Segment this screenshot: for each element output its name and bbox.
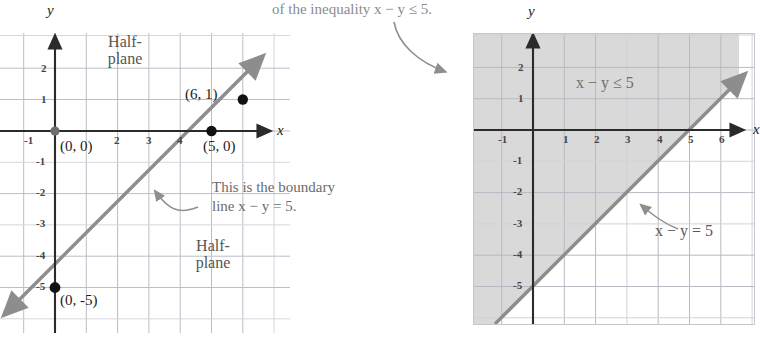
region-label-upper-halfplane: Half- plane <box>90 34 160 68</box>
right-xtick-1: 1 <box>563 133 569 145</box>
right-ytick--1: -1 <box>513 154 522 166</box>
point-label-origin: (0, 0) <box>60 138 93 155</box>
right-xtick-5: 5 <box>688 133 694 145</box>
point-label-0-minus5: (0, -5) <box>60 292 98 309</box>
right-ytick--2: -2 <box>513 185 522 197</box>
right-ytick-1: 1 <box>518 92 524 104</box>
left-ytick--4: -4 <box>36 249 45 261</box>
boundary-note: This is the boundary line x − y = 5. <box>212 178 335 216</box>
region-label-upper-line1: Half- <box>108 33 142 50</box>
figure-root: of the inequality x − y ≤ 5. <box>0 0 760 342</box>
right-xtick-4: 4 <box>657 133 663 145</box>
left-ytick--1: -1 <box>36 155 45 167</box>
left-xtick-4: 4 <box>177 134 183 146</box>
left-ytick--3: -3 <box>36 217 45 229</box>
left-y-axis-label: y <box>47 2 54 19</box>
right-ytick-2: 2 <box>518 61 524 73</box>
region-label-lower-halfplane: Half- plane <box>178 238 248 272</box>
region-label-lower-line1: Half- <box>196 237 230 254</box>
region-label-lower-line2: plane <box>196 254 231 271</box>
left-x-axis-label: x <box>277 122 284 139</box>
left-xtick-2: 2 <box>114 134 120 146</box>
left-ytick-2: 2 <box>41 62 47 74</box>
caption-text: of the inequality x − y ≤ 5. <box>272 1 432 18</box>
boundary-note-line2: line x − y = 5. <box>212 198 296 214</box>
region-label-upper-line2: plane <box>108 50 143 67</box>
right-x-axis-label: x <box>753 121 760 138</box>
left-xtick--1: -1 <box>24 134 33 146</box>
right-ytick--3: -3 <box>513 217 522 229</box>
point-label-5-0: (5, 0) <box>203 138 236 155</box>
inequality-region-label: x − y ≤ 5 <box>576 74 634 92</box>
left-ytick--2: -2 <box>36 186 45 198</box>
right-xtick-6: 6 <box>719 133 725 145</box>
point-label-6-1: (6, 1) <box>185 86 218 103</box>
right-xtick-2: 2 <box>594 133 600 145</box>
left-ytick--5: -5 <box>36 280 45 292</box>
right-ytick--5: -5 <box>513 279 522 291</box>
right-y-axis-label: y <box>528 3 535 20</box>
boundary-equation-label: x − y = 5 <box>655 222 713 240</box>
left-ytick-1: 1 <box>41 93 47 105</box>
right-xtick--1: -1 <box>498 133 507 145</box>
boundary-note-line1: This is the boundary <box>212 179 335 195</box>
right-ytick--4: -4 <box>513 248 522 260</box>
right-xtick-3: 3 <box>625 133 631 145</box>
left-xtick-3: 3 <box>146 134 152 146</box>
